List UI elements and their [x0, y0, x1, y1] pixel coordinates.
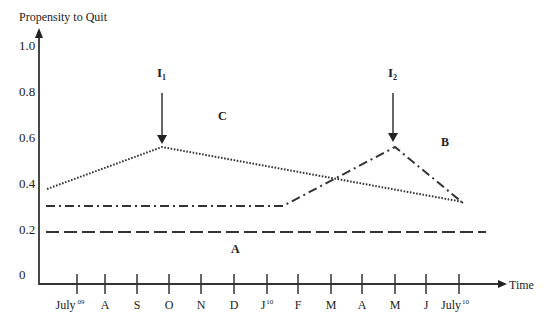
- y-tick-label: 0.2: [19, 222, 35, 237]
- y-tick-label: 0.8: [19, 84, 35, 99]
- series-a-label: A: [231, 242, 240, 256]
- x-tick-label: July10: [441, 298, 470, 312]
- x-tick-label: O: [165, 298, 174, 312]
- y-tick-label: 0.4: [19, 176, 36, 191]
- x-tick-labels: July09 A S O N D J10 F M A M J July10: [55, 298, 469, 312]
- propensity-to-quit-chart: Propensity to Quit 1.0 0.8 0.6 0.4 0.2 0…: [0, 0, 548, 325]
- x-axis-label: Time: [509, 278, 534, 292]
- x-tick-label: M: [326, 298, 337, 312]
- intervention-1-label: I1: [157, 65, 166, 82]
- x-tick-label: D: [230, 298, 239, 312]
- series-b-label: B: [441, 135, 449, 149]
- y-axis-label: Propensity to Quit: [19, 10, 108, 24]
- x-tick-label: July09: [55, 298, 85, 312]
- y-axis: [35, 28, 43, 285]
- intervention-1-arrow-icon: [157, 93, 167, 144]
- x-tick-label: N: [197, 298, 206, 312]
- x-tick-label: A: [101, 298, 110, 312]
- x-axis: [39, 280, 507, 288]
- y-axis-arrow-icon: [35, 28, 43, 38]
- intervention-2-label: I2: [388, 65, 397, 82]
- x-tick-label: M: [390, 298, 401, 312]
- series-c-label: C: [218, 109, 227, 123]
- x-tick-label: S: [134, 298, 141, 312]
- y-tick-label: 1.0: [19, 38, 35, 53]
- y-tick-label: 0: [19, 267, 26, 282]
- x-tick-label: F: [295, 298, 302, 312]
- series-b-line: [46, 147, 463, 206]
- x-tick-label: J10: [261, 298, 274, 312]
- x-tick-label: J: [424, 298, 429, 312]
- series-c-line: [47, 147, 463, 202]
- x-tick-label: A: [358, 298, 367, 312]
- y-tick-label: 0.6: [19, 130, 36, 145]
- y-tick-labels: 1.0 0.8 0.6 0.4 0.2 0: [19, 38, 36, 282]
- intervention-2-arrow-icon: [388, 93, 398, 142]
- x-axis-arrow-icon: [498, 280, 507, 288]
